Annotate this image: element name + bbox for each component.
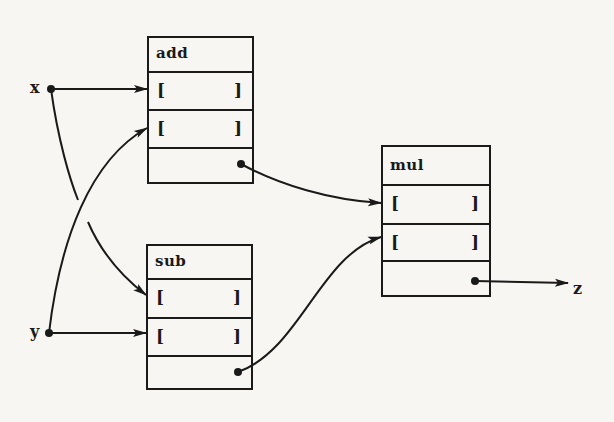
mul-node: mul [ ] [ ] <box>381 145 491 297</box>
sub-label: sub <box>155 252 186 270</box>
edge-sub-to-mul <box>238 237 381 372</box>
add-result-cell <box>149 149 252 184</box>
open-bracket: [ <box>391 232 399 252</box>
add-slot-2: [ ] <box>149 111 252 149</box>
add-header: add <box>149 38 252 73</box>
mul-slot-1: [ ] <box>383 186 489 225</box>
edge-x-to-sub-upper <box>51 89 78 200</box>
mul-header: mul <box>383 147 489 186</box>
sub-result-cell <box>148 357 251 390</box>
sub-node: sub [ ] [ ] <box>146 244 253 390</box>
open-bracket: [ <box>157 118 165 138</box>
add-node: add [ ] [ ] <box>147 36 254 184</box>
open-bracket: [ <box>391 193 399 213</box>
open-bracket: [ <box>156 287 164 307</box>
close-bracket: ] <box>234 80 242 100</box>
sub-header: sub <box>148 246 251 280</box>
dataflow-diagram: x y z add [ ] [ ] sub [ ] [ ] <box>0 0 614 422</box>
edge-add-to-mul <box>241 164 381 203</box>
wires-layer <box>0 0 614 422</box>
y-terminal-dot <box>45 329 53 337</box>
close-bracket: ] <box>234 118 242 138</box>
add-label: add <box>156 44 188 62</box>
sub-slot-2: [ ] <box>148 319 251 357</box>
mul-label: mul <box>390 156 424 174</box>
sub-slot-1: [ ] <box>148 280 251 319</box>
close-bracket: ] <box>471 193 479 213</box>
open-bracket: [ <box>156 326 164 346</box>
mul-result-cell <box>383 262 489 297</box>
add-slot-1: [ ] <box>149 73 252 111</box>
close-bracket: ] <box>233 326 241 346</box>
open-bracket: [ <box>157 80 165 100</box>
x-terminal-dot <box>47 85 55 93</box>
mul-slot-2: [ ] <box>383 225 489 262</box>
output-z-label: z <box>573 279 582 298</box>
close-bracket: ] <box>471 232 479 252</box>
close-bracket: ] <box>233 287 241 307</box>
edge-x-to-sub-lower <box>88 222 146 295</box>
edge-y-to-add <box>49 128 147 333</box>
input-y-label: y <box>30 322 39 341</box>
input-x-label: x <box>30 78 40 97</box>
